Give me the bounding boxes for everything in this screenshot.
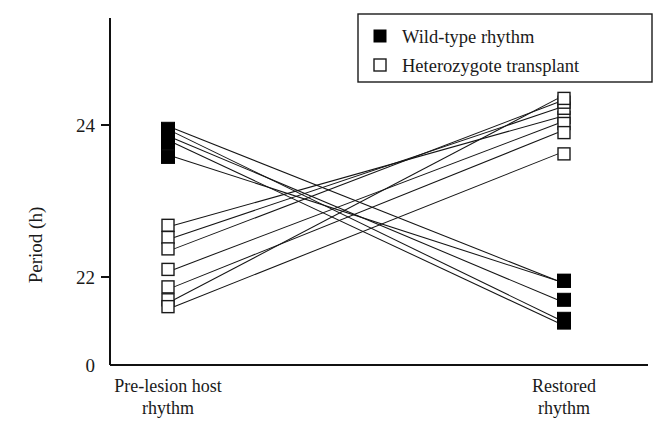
series-connector (174, 98, 558, 299)
marker-heterozygote (162, 301, 174, 313)
slope-chart-svg: 24220Period (h)Pre-lesion hostrhythmRest… (0, 0, 662, 432)
y-tick-label: 24 (76, 115, 96, 136)
legend-swatch-wild-type (374, 30, 386, 42)
marker-heterozygote (162, 281, 174, 293)
marker-heterozygote (558, 127, 570, 139)
data-markers (162, 92, 571, 329)
marker-wild-type (162, 150, 175, 163)
series-connector (174, 154, 558, 307)
series-connector (174, 108, 558, 237)
marker-heterozygote (162, 219, 174, 231)
marker-wild-type (558, 293, 571, 306)
marker-wild-type (162, 137, 175, 150)
series-connector (174, 123, 558, 269)
y-tick-label: 22 (76, 267, 95, 288)
y-tick-label: 0 (86, 355, 96, 376)
marker-heterozygote (558, 92, 570, 104)
legend-swatch-heterozygote (374, 59, 386, 71)
legend-label: Heterozygote transplant (402, 56, 580, 76)
marker-wild-type (558, 274, 571, 287)
series-connector (174, 133, 558, 287)
x-category-label: Restored (532, 376, 596, 396)
series-connector (175, 129, 558, 281)
series-connector (174, 117, 558, 225)
connector-lines (174, 98, 558, 322)
marker-heterozygote (162, 231, 174, 243)
chart-figure: 24220Period (h)Pre-lesion hostrhythmRest… (0, 0, 662, 432)
marker-heterozygote (162, 263, 174, 275)
marker-heterozygote (162, 243, 174, 255)
series-connector (175, 133, 558, 319)
marker-heterozygote (558, 148, 570, 160)
x-category-label: rhythm (538, 398, 590, 418)
series-connector (175, 143, 558, 322)
x-category-label: Pre-lesion host (114, 376, 222, 396)
marker-wild-type (558, 316, 571, 329)
y-axis-title: Period (h) (25, 207, 47, 284)
legend-label: Wild-type rhythm (402, 27, 535, 47)
x-category-label: rhythm (142, 398, 194, 418)
chart-legend: Wild-type rhythmHeterozygote transplant (358, 14, 652, 82)
